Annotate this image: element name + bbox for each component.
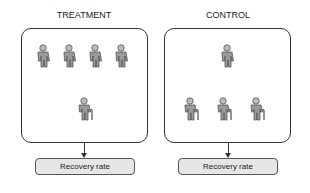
young-person-icon: [88, 44, 104, 69]
treatment-outcome-box: Recovery rate: [35, 158, 135, 175]
control-title: CONTROL: [163, 10, 293, 20]
young-person-icon: [36, 44, 52, 69]
young-person-icon: [62, 44, 78, 69]
elderly-person-icon: [249, 97, 267, 122]
control-outcome-box: Recovery rate: [178, 158, 278, 175]
elderly-person-icon: [77, 97, 95, 122]
elderly-person-icon: [216, 97, 234, 122]
treatment-title: TREATMENT: [19, 10, 149, 20]
elderly-person-icon: [183, 97, 201, 122]
young-person-icon: [220, 44, 236, 69]
young-person-icon: [114, 44, 130, 69]
